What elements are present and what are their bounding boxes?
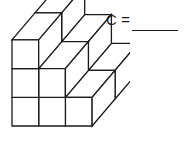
cube-face [39,69,66,98]
cube-face [12,97,39,126]
cube-face [65,97,92,126]
cube-face [12,40,39,69]
equals-sign: = [121,11,130,28]
cube-face [12,69,39,98]
variable-label-c: C [106,11,117,28]
cube-face [39,97,66,126]
answer-blank-input[interactable] [132,11,178,31]
worksheet-canvas: C = [0,0,188,141]
answer-prompt: C = [106,11,186,39]
